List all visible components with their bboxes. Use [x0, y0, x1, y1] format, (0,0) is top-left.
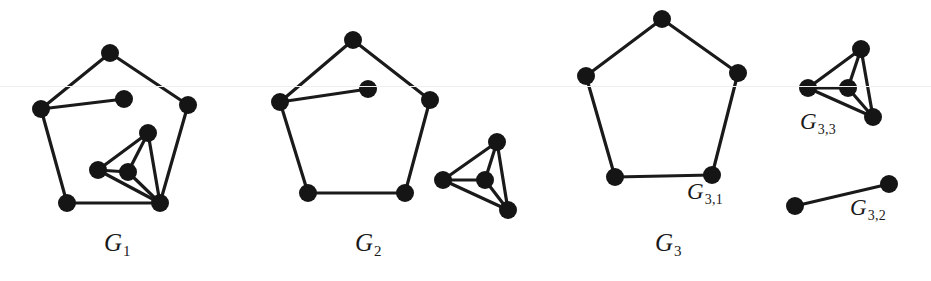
label-g3-base: G	[655, 229, 673, 256]
graph-vertex	[786, 197, 804, 215]
graph-vertex	[344, 31, 362, 49]
figure-root: G1 G2 G3 G3,1 G3,2 G3,3	[0, 0, 931, 281]
graph-vertex	[864, 108, 882, 126]
label-g1: G1	[104, 230, 131, 259]
label-g3-3: G3,3	[800, 110, 836, 137]
graph-g3	[577, 10, 747, 186]
graph-vertex	[89, 161, 107, 179]
graph-vertex	[606, 168, 624, 186]
graph-drawing-canvas	[0, 0, 931, 281]
label-g3: G3	[655, 230, 682, 259]
graph-edge	[712, 73, 738, 175]
label-g1-subscript: 1	[122, 243, 131, 259]
label-g3-3-subscript: 3,3	[817, 122, 836, 137]
graph-vertex	[476, 171, 494, 189]
graph-edge	[41, 109, 67, 203]
label-g3-2-subscript: 3,2	[867, 208, 886, 223]
label-g3-2-base: G	[850, 195, 867, 220]
graph-vertex	[852, 40, 870, 58]
label-g2-base: G	[355, 229, 373, 256]
graph-edge	[98, 133, 148, 170]
graph-vertex	[119, 163, 137, 181]
graph-vertex	[271, 93, 289, 111]
graph-vertex	[359, 80, 377, 98]
label-g2: G2	[355, 230, 382, 259]
graph-vertex	[839, 79, 857, 97]
graph-vertex	[653, 10, 671, 28]
label-g3-1-subscript: 3,1	[704, 192, 723, 207]
graph-edge	[662, 19, 738, 73]
label-g1-base: G	[104, 229, 122, 256]
graph-vertex	[488, 133, 506, 151]
label-g3-subscript: 3	[673, 243, 682, 259]
graph-edge	[280, 102, 308, 193]
graph-vertex	[799, 79, 817, 97]
graph-edge	[615, 175, 712, 177]
label-g2-subscript: 2	[373, 243, 382, 259]
scan-artifact-line	[0, 86, 931, 87]
graph-edge	[586, 76, 615, 177]
graph-g1	[32, 44, 197, 212]
label-g3-1: G3,1	[687, 180, 723, 207]
graph-vertex	[499, 201, 517, 219]
graph-edge	[405, 100, 430, 193]
graph-vertex	[434, 171, 452, 189]
graph-g2	[271, 31, 517, 219]
graph-vertex	[179, 96, 197, 114]
graph-vertex	[101, 44, 119, 62]
label-g3-2: G3,2	[850, 196, 886, 223]
label-g3-3-base: G	[800, 109, 817, 134]
graph-vertex	[421, 91, 439, 109]
graph-vertex	[880, 175, 898, 193]
graph-vertex	[32, 100, 50, 118]
graph-edge	[160, 105, 188, 203]
graph-vertex	[299, 184, 317, 202]
graph-vertex	[729, 64, 747, 82]
graph-vertex	[139, 124, 157, 142]
graphs-layer	[32, 10, 898, 219]
graph-vertex	[396, 184, 414, 202]
label-g3-1-base: G	[687, 179, 704, 204]
graph-edge	[586, 19, 662, 76]
graph-vertex	[577, 67, 595, 85]
graph-vertex	[115, 90, 133, 108]
graph-vertex	[58, 194, 76, 212]
graph-vertex	[151, 194, 169, 212]
